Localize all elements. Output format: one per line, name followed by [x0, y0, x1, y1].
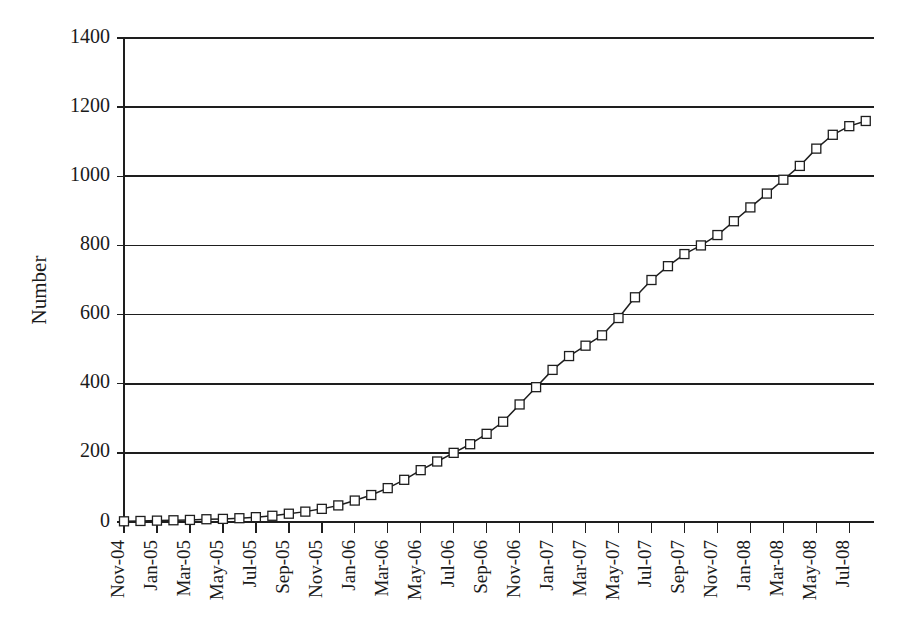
data-point-marker	[185, 515, 194, 524]
data-point-marker	[268, 511, 277, 520]
data-point-marker	[235, 514, 244, 523]
y-axis-title: Number	[27, 256, 51, 325]
y-tick-label: 1000	[70, 163, 110, 185]
data-point-marker	[251, 513, 260, 522]
x-tick-label: Jul-07	[634, 540, 655, 588]
grid-lines	[124, 38, 874, 522]
data-point-marker	[284, 509, 293, 518]
data-point-marker	[746, 203, 755, 212]
data-point-marker	[136, 516, 145, 525]
data-point-marker	[647, 276, 656, 285]
data-point-marker	[680, 250, 689, 259]
x-tick-label: Nov-06	[503, 540, 524, 598]
x-tick-label: Sep-06	[470, 540, 491, 594]
y-tick-label: 200	[80, 439, 110, 461]
data-point-marker	[581, 341, 590, 350]
data-point-marker	[499, 417, 508, 426]
data-point-marker	[812, 144, 821, 153]
data-point-marker	[152, 516, 161, 525]
data-point-marker	[663, 262, 672, 271]
x-tick-label: Jan-07	[536, 540, 557, 591]
x-axis	[124, 522, 849, 533]
data-point-marker	[482, 429, 491, 438]
data-point-marker	[845, 122, 854, 131]
data-point-marker	[598, 331, 607, 340]
data-point-marker	[828, 130, 837, 139]
x-tick-label: May-06	[404, 540, 425, 600]
x-tick-label: Nov-07	[700, 540, 721, 598]
data-point-marker	[120, 517, 129, 526]
x-tick-label: Jul-06	[437, 540, 458, 588]
data-point-marker	[433, 457, 442, 466]
x-tick-label: Mar-05	[173, 540, 194, 597]
data-point-marker	[779, 175, 788, 184]
data-point-marker	[729, 217, 738, 226]
y-tick-labels: 0200400600800100012001400	[70, 25, 110, 531]
data-point-marker	[696, 241, 705, 250]
chart-container: 0200400600800100012001400 Nov-04Jan-05Ma…	[0, 0, 912, 634]
data-point-marker	[614, 314, 623, 323]
data-point-marker	[202, 515, 211, 524]
line-chart: 0200400600800100012001400 Nov-04Jan-05Ma…	[0, 0, 912, 634]
data-point-marker	[367, 491, 376, 500]
x-tick-label: Nov-04	[107, 540, 128, 599]
data-series	[120, 116, 871, 525]
data-point-marker	[466, 440, 475, 449]
x-tick-label: Jan-06	[338, 540, 359, 591]
data-point-marker	[301, 507, 310, 516]
x-tick-label: Mar-06	[371, 540, 392, 597]
data-point-marker	[334, 501, 343, 510]
y-tick-label: 1400	[70, 25, 110, 47]
x-tick-label: Sep-05	[272, 540, 293, 594]
series-line	[124, 121, 866, 521]
data-point-marker	[317, 504, 326, 513]
x-tick-labels: Nov-04Jan-05Mar-05May-05Jul-05Sep-05Nov-…	[107, 540, 853, 601]
data-point-marker	[630, 293, 639, 302]
data-point-marker	[383, 484, 392, 493]
x-tick-label: Jan-08	[733, 540, 754, 591]
y-axis	[117, 38, 124, 522]
y-tick-label: 600	[80, 301, 110, 323]
data-point-marker	[350, 496, 359, 505]
y-tick-label: 800	[80, 232, 110, 254]
data-point-marker	[548, 365, 557, 374]
x-tick-label: Mar-07	[569, 540, 590, 597]
data-point-marker	[565, 352, 574, 361]
data-point-marker	[169, 516, 178, 525]
x-tick-label: Jul-05	[239, 540, 260, 588]
data-point-marker	[762, 189, 771, 198]
x-tick-label: Jan-05	[140, 540, 161, 591]
data-point-marker	[532, 383, 541, 392]
x-tick-label: Mar-08	[766, 540, 787, 597]
data-point-marker	[861, 116, 870, 125]
y-tick-label: 0	[100, 509, 110, 531]
x-tick-label: Sep-07	[667, 540, 688, 594]
x-tick-label: May-05	[206, 540, 227, 600]
data-point-marker	[515, 400, 524, 409]
data-point-marker	[713, 231, 722, 240]
y-tick-label: 400	[80, 370, 110, 392]
x-tick-label: Nov-05	[305, 540, 326, 598]
x-tick-label: May-08	[799, 540, 820, 600]
data-point-marker	[449, 448, 458, 457]
x-tick-label: Jul-08	[832, 540, 853, 588]
data-point-marker	[795, 161, 804, 170]
data-point-marker	[218, 514, 227, 523]
data-point-marker	[416, 466, 425, 475]
y-tick-label: 1200	[70, 94, 110, 116]
x-tick-label: May-07	[602, 540, 623, 600]
data-point-marker	[400, 475, 409, 484]
